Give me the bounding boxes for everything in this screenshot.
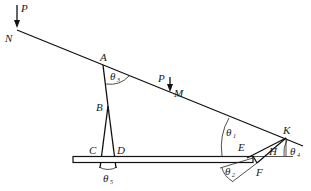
point-label-k: K bbox=[282, 124, 291, 136]
angle-subscript-theta3: 3 bbox=[116, 77, 120, 83]
beam-nk bbox=[17, 30, 303, 146]
point-label-m: M bbox=[173, 87, 184, 99]
linkage-diagram: P N P M A B C D θ 3 θ 5 θ 1 θ 2 θ 4 K E … bbox=[0, 0, 311, 191]
point-label-c: C bbox=[89, 144, 97, 156]
point-label-h: H bbox=[268, 145, 278, 157]
link-ef bbox=[253, 156, 257, 163]
angle-symbol-theta1: θ bbox=[226, 126, 232, 138]
extension-line-f bbox=[232, 163, 257, 182]
point-label-a: A bbox=[99, 51, 107, 63]
force-arrow-m bbox=[167, 77, 173, 92]
angle-symbol-theta5: θ bbox=[103, 172, 109, 184]
point-label-d: D bbox=[116, 144, 125, 156]
point-label-n: N bbox=[4, 32, 13, 44]
point-label-e: E bbox=[237, 141, 245, 153]
point-label-b: B bbox=[96, 101, 103, 113]
angle-arc-theta4 bbox=[284, 140, 287, 156]
point-label-f: F bbox=[255, 166, 263, 178]
angle-subscript-theta2: 2 bbox=[232, 172, 235, 178]
link-ab bbox=[103, 65, 108, 106]
force-label-p-m: P bbox=[157, 72, 165, 84]
angle-symbol-theta3: θ bbox=[110, 70, 116, 82]
force-arrow-n bbox=[14, 5, 20, 28]
angle-subscript-theta5: 5 bbox=[110, 179, 113, 185]
angle-arc-theta5 bbox=[99, 167, 117, 170]
force-label-p-n: P bbox=[20, 2, 28, 14]
ground-bar bbox=[73, 157, 253, 163]
angle-subscript-theta4: 4 bbox=[297, 152, 300, 158]
angle-symbol-theta2: θ bbox=[225, 165, 231, 177]
angle-symbol-theta4: θ bbox=[290, 145, 296, 157]
angle-subscript-theta1: 1 bbox=[233, 133, 236, 139]
